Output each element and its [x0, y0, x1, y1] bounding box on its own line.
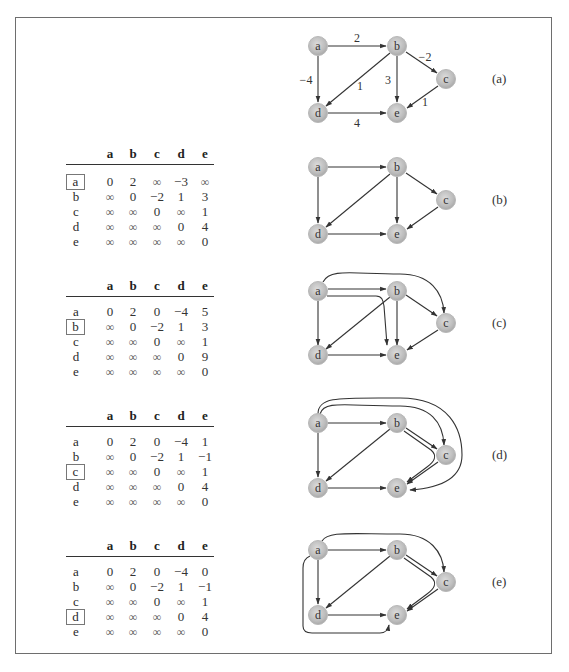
node-c: c — [437, 191, 456, 210]
svg-text:c: c — [443, 193, 448, 207]
svg-text:d: d — [315, 481, 321, 495]
svg-text:c: c — [443, 448, 448, 462]
node-d: d — [309, 225, 328, 244]
node-c: c — [437, 70, 456, 89]
edge-a-e-path — [318, 398, 462, 490]
node-e: e — [388, 606, 407, 625]
node-c: c — [437, 314, 456, 333]
node-e: e — [388, 346, 407, 365]
weight-b-d: 1 — [357, 79, 363, 93]
svg-text:e: e — [394, 348, 399, 362]
node-c: c — [437, 446, 456, 465]
node-a: a — [309, 541, 328, 560]
svg-text:b: b — [394, 284, 400, 298]
graph-panel-b: a b c d e (b) — [309, 158, 508, 244]
panel-label-b: (b) — [492, 192, 507, 207]
panel-label-d: (d) — [492, 447, 507, 462]
edge-a-c-path — [323, 273, 444, 313]
edge-b-c — [406, 295, 437, 316]
svg-text:d: d — [315, 106, 321, 120]
svg-text:d: d — [315, 227, 321, 241]
node-b: b — [388, 282, 407, 301]
graphs-canvas: 2 −4 −2 1 3 1 4 a b c d e (a) a b c d e … — [0, 0, 569, 672]
node-b: b — [388, 414, 407, 433]
svg-text:c: c — [443, 72, 448, 86]
edge-b-c — [406, 428, 437, 449]
node-a: a — [309, 158, 328, 177]
weight-b-e: 3 — [385, 73, 391, 87]
edge-c-e — [407, 589, 438, 611]
graph-panel-a: 2 −4 −2 1 3 1 4 a b c d e (a) — [300, 31, 507, 130]
edge-b-d — [326, 556, 390, 608]
weight-b-c: −2 — [419, 50, 432, 64]
svg-text:b: b — [394, 160, 400, 174]
weight-a-b: 2 — [354, 31, 360, 45]
edge-b-e-path — [404, 431, 435, 482]
node-b: b — [388, 541, 407, 560]
panel-label-e: (e) — [492, 574, 506, 589]
edge-b-d — [326, 174, 390, 227]
edge-c-e — [407, 462, 438, 484]
edge-b-e-path — [404, 558, 435, 609]
svg-text:a: a — [315, 160, 321, 174]
graph-panel-e: a b c d e (e) — [303, 534, 506, 633]
svg-text:a: a — [315, 39, 321, 53]
svg-text:a: a — [315, 284, 321, 298]
svg-text:b: b — [394, 416, 400, 430]
svg-text:e: e — [394, 481, 399, 495]
edge-b-c — [406, 173, 437, 194]
node-a: a — [309, 37, 328, 56]
edge-b-d — [326, 429, 390, 481]
edge-c-e — [407, 207, 438, 229]
weight-c-e: 1 — [422, 95, 428, 109]
svg-text:e: e — [394, 106, 399, 120]
panel-label-c: (c) — [492, 315, 506, 330]
svg-text:d: d — [315, 348, 321, 362]
node-a: a — [309, 282, 328, 301]
edge-a-c-path — [320, 405, 444, 445]
node-e: e — [388, 225, 407, 244]
svg-text:c: c — [443, 316, 448, 330]
svg-text:e: e — [394, 608, 399, 622]
weight-d-e: 4 — [354, 116, 360, 130]
svg-text:a: a — [315, 543, 321, 557]
edge-c-e — [407, 330, 438, 350]
edge-b-d — [326, 297, 390, 349]
svg-text:b: b — [394, 543, 400, 557]
svg-text:c: c — [443, 575, 448, 589]
svg-text:e: e — [394, 227, 399, 241]
node-d: d — [309, 104, 328, 123]
node-d: d — [309, 346, 328, 365]
node-c: c — [437, 573, 456, 592]
graph-panel-c: a b c d e (c) — [309, 273, 507, 365]
node-d: d — [309, 606, 328, 625]
node-a: a — [309, 414, 328, 433]
weight-a-d: −4 — [300, 73, 313, 87]
panel-label-a: (a) — [492, 71, 506, 86]
graph-panel-d: a b c d e (d) — [309, 398, 508, 498]
node-e: e — [388, 479, 407, 498]
edge-a-e-path — [327, 296, 387, 345]
svg-text:d: d — [315, 608, 321, 622]
edge-a-c-path — [322, 534, 444, 572]
node-d: d — [309, 479, 328, 498]
node-b: b — [388, 37, 407, 56]
node-b: b — [388, 158, 407, 177]
svg-text:b: b — [394, 39, 400, 53]
node-e: e — [388, 104, 407, 123]
svg-text:a: a — [315, 416, 321, 430]
edge-b-c — [406, 555, 437, 576]
